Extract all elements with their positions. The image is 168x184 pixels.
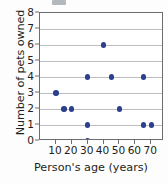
- data-point: [141, 122, 146, 127]
- data-point: [141, 74, 146, 79]
- scatter-plot-figure: Number of pets owned 012345678 102030405…: [0, 0, 168, 184]
- cropped-title-artifact: [52, 0, 66, 5]
- data-point: [53, 90, 58, 95]
- data-point: [69, 106, 74, 111]
- x-axis-title: Person's age (years): [14, 161, 168, 174]
- y-tick-label: 1: [20, 119, 34, 130]
- gridline: [40, 61, 162, 62]
- gridline: [40, 29, 162, 30]
- gridline: [40, 109, 162, 110]
- y-tick-label: 0: [20, 135, 34, 146]
- x-tick-label: 70: [139, 144, 161, 156]
- y-tick-label: 8: [20, 7, 34, 18]
- plot-area: [39, 12, 163, 140]
- x-axis-tick-labels: 10203040506070: [39, 144, 163, 157]
- data-point: [85, 122, 90, 127]
- data-point: [85, 74, 90, 79]
- data-point: [61, 106, 66, 111]
- y-tick-label: 4: [20, 71, 34, 82]
- data-point: [109, 74, 114, 79]
- data-point: [101, 42, 106, 47]
- y-axis-tick-labels: 012345678: [20, 12, 34, 140]
- data-point: [117, 106, 122, 111]
- data-point: [149, 122, 154, 127]
- y-tick-label: 6: [20, 39, 34, 50]
- y-tick-label: 7: [20, 23, 34, 34]
- y-tick-label: 2: [20, 103, 34, 114]
- y-tick-label: 3: [20, 87, 34, 98]
- y-tick-label: 5: [20, 55, 34, 66]
